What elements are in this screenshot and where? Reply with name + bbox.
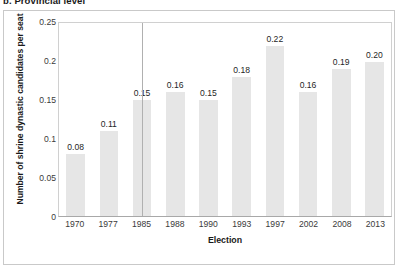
bars-layer: 0.080.110.150.160.150.180.220.160.190.20: [59, 23, 391, 216]
bar: [299, 92, 318, 216]
bar-value-label: 0.08: [59, 142, 92, 152]
x-axis-tick-label: 1970: [58, 219, 91, 229]
plot-area: 0.080.110.150.160.150.180.220.160.190.20: [58, 22, 392, 217]
y-axis-tick-label: 0.2: [24, 56, 56, 66]
bar-value-label: 0.22: [258, 34, 291, 44]
bar-value-label: 0.20: [358, 50, 391, 60]
y-axis-tick-label: 0.15: [24, 95, 56, 105]
bar-value-label: 0.11: [92, 119, 125, 129]
x-axis-tick-label: 2008: [325, 219, 358, 229]
chart-frame: Number of shrine dynastic candidates per…: [3, 10, 395, 265]
x-axis-tick-label: 1985: [125, 219, 158, 229]
bar: [100, 131, 119, 216]
bar-slot: 0.22: [258, 23, 291, 216]
bar-value-label: 0.18: [225, 65, 258, 75]
bar: [332, 69, 351, 216]
bar: [166, 92, 185, 216]
bar-slot: 0.19: [325, 23, 358, 216]
bar-slot: 0.15: [192, 23, 225, 216]
bar: [199, 100, 218, 216]
bar-slot: 0.08: [59, 23, 92, 216]
bar: [266, 46, 285, 216]
bar-value-label: 0.15: [192, 88, 225, 98]
bar: [232, 77, 251, 216]
marker-line-icon: [142, 23, 143, 216]
x-axis-tick-label: 1997: [258, 219, 291, 229]
y-axis-tick-labels: 00.050.10.150.20.25: [24, 17, 56, 217]
y-axis-tick-label: 0.05: [24, 173, 56, 183]
x-axis-tick-label: 1993: [225, 219, 258, 229]
bar-slot: 0.18: [225, 23, 258, 216]
x-axis-tick-label: 2013: [359, 219, 392, 229]
bar-slot: 0.11: [92, 23, 125, 216]
bar-slot: 0.20: [358, 23, 391, 216]
x-axis-tick-labels: 1970197719851988199019931997200220082013: [58, 219, 392, 229]
bar-value-label: 0.16: [159, 80, 192, 90]
x-axis-tick-label: 1990: [192, 219, 225, 229]
bar: [365, 62, 384, 216]
bar-value-label: 0.16: [291, 80, 324, 90]
x-axis-tick-label: 1977: [91, 219, 124, 229]
bar-slot: 0.16: [291, 23, 324, 216]
bar: [66, 154, 85, 216]
figure-caption-bar: b. Provincial level: [0, 0, 399, 9]
figure-caption: b. Provincial level: [3, 0, 85, 6]
x-axis-tick-label: 2002: [292, 219, 325, 229]
bar-slot: 0.16: [159, 23, 192, 216]
y-axis-tick-label: 0.25: [24, 17, 56, 27]
y-axis-tick-label: 0: [24, 212, 56, 222]
bar-value-label: 0.19: [325, 57, 358, 67]
y-axis-title: Number of shrine dynastic candidates per…: [15, 12, 25, 207]
x-axis-tick-label: 1988: [158, 219, 191, 229]
x-axis-title: Election: [58, 235, 392, 245]
y-axis-tick-label: 0.1: [24, 134, 56, 144]
